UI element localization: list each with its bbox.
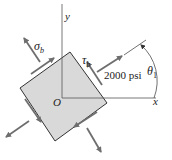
normal-stress-arrow-lower-left <box>6 121 29 137</box>
reference-line <box>124 40 146 55</box>
stress-value-label: 2000 psi <box>104 69 142 81</box>
tau-b-label: τb <box>82 53 90 69</box>
normal-stress-arrow-lower-right <box>87 128 101 152</box>
y-axis-label: y <box>64 10 70 22</box>
origin-label: O <box>53 96 61 108</box>
stress-element-diagram: y x O σb τb 2000 psi θ1 <box>0 0 172 160</box>
x-axis-label: x <box>152 95 158 107</box>
stress-element <box>20 52 107 141</box>
theta-label: θ1 <box>147 64 157 80</box>
sigma-b-label: σb <box>34 39 44 55</box>
